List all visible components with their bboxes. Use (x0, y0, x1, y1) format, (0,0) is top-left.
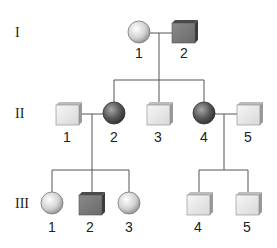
male-unaffected-icon (147, 105, 170, 125)
cube-top (237, 102, 263, 105)
individual-number: 2 (180, 45, 188, 61)
cube-top (236, 192, 262, 195)
individual-number: 5 (243, 219, 251, 235)
individual-II-2: 2 (103, 102, 125, 145)
cube-top (147, 102, 173, 105)
cube-top (56, 102, 82, 105)
cube-side (170, 102, 173, 125)
pedigree-diagram: I II III 1 2 1 (0, 0, 277, 248)
cube-top (79, 192, 105, 195)
generation-label-I: I (15, 25, 20, 40)
individual-number: 5 (244, 129, 252, 145)
female-unaffected-icon (41, 192, 63, 214)
male-unaffected-icon (56, 105, 79, 125)
individual-number: 1 (135, 45, 143, 61)
female-affected-icon (103, 102, 125, 124)
individual-II-4: 4 (193, 102, 215, 145)
individual-number: 3 (125, 219, 133, 235)
cube-side (79, 102, 82, 125)
male-affected-icon (172, 23, 195, 43)
individual-III-4: 4 (187, 192, 213, 235)
cube-side (260, 102, 263, 125)
individual-number: 1 (63, 129, 71, 145)
male-unaffected-icon (237, 105, 260, 125)
female-unaffected-icon (128, 21, 150, 43)
individual-number: 2 (110, 129, 118, 145)
individual-III-1: 1 (41, 192, 63, 235)
individual-number: 4 (194, 219, 202, 235)
cube-top (187, 192, 213, 195)
generation-label-III: III (15, 196, 29, 211)
individual-I-1: 1 (128, 21, 150, 61)
individual-III-3: 3 (118, 192, 140, 235)
individual-II-3: 3 (147, 102, 173, 145)
male-unaffected-icon (187, 195, 210, 215)
individual-II-1: 1 (56, 102, 82, 145)
cube-side (259, 192, 262, 215)
generation-label-II: II (15, 106, 25, 121)
male-affected-icon (79, 195, 102, 215)
individual-III-2: 2 (79, 192, 105, 235)
cube-top (172, 20, 198, 23)
male-unaffected-icon (236, 195, 259, 215)
individual-III-5: 5 (236, 192, 262, 235)
female-unaffected-icon (118, 192, 140, 214)
individual-number: 2 (86, 219, 94, 235)
cube-side (102, 192, 105, 215)
individual-number: 3 (154, 129, 162, 145)
cube-side (210, 192, 213, 215)
female-affected-icon (193, 102, 215, 124)
cube-side (195, 20, 198, 43)
individual-number: 4 (200, 129, 208, 145)
individual-number: 1 (48, 219, 56, 235)
individual-II-5: 5 (237, 102, 263, 145)
individual-I-2: 2 (172, 20, 198, 61)
